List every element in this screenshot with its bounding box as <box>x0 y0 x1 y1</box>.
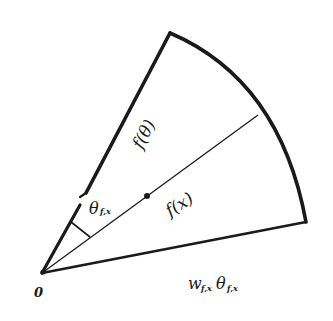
svg-text:θ: θ <box>89 199 99 218</box>
sector-arc <box>170 33 306 222</box>
svg-text:f,x: f,x <box>200 283 212 293</box>
bisector-label: f(x) <box>160 188 197 221</box>
arc-length-label: w f,x θ f,x <box>188 274 238 293</box>
svg-text:f,x: f,x <box>226 283 238 293</box>
svg-text:θ: θ <box>216 274 226 293</box>
upper-edge-line <box>42 205 80 273</box>
sector-diagram: 0 f(θ) f(x) θ f,x w f,x θ f,x <box>0 0 333 321</box>
svg-text:w: w <box>188 274 202 293</box>
origin-label: 0 <box>34 285 43 300</box>
arrow-icon <box>80 193 86 197</box>
upper-edge-line-top <box>86 33 170 193</box>
midpoint-dot <box>144 193 150 199</box>
origin-vertex <box>40 269 45 274</box>
upper-edge-label: f(θ) <box>127 116 160 153</box>
angle-label: θ f,x <box>89 199 111 218</box>
svg-text:f(x): f(x) <box>160 188 197 221</box>
angle-arc-marker <box>71 222 90 237</box>
svg-text:f(θ): f(θ) <box>127 116 160 153</box>
svg-text:f,x: f,x <box>99 206 111 216</box>
